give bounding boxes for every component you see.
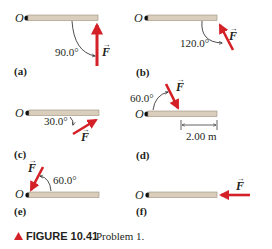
- rod: [148, 15, 217, 21]
- vector-arrow-icon: →: [230, 24, 238, 33]
- pivot-label: O: [15, 187, 24, 201]
- caption-text: Problem 1.: [96, 230, 145, 242]
- panel-e: O 60.0° F → (e): [14, 156, 99, 218]
- rod: [29, 192, 99, 198]
- vector-arrow-icon: →: [82, 125, 90, 134]
- angle-arc: [70, 117, 73, 125]
- vector-arrow-icon: →: [29, 156, 37, 165]
- angle-label: 60.0°: [130, 92, 154, 104]
- rod: [149, 192, 217, 198]
- angle-label: 120.0°: [180, 37, 209, 49]
- panel-label: (f): [136, 205, 147, 218]
- panel-d: O 60.0° F → 2.00 m (d): [130, 75, 217, 162]
- panel-b: O 120.0° F → (b): [134, 11, 238, 79]
- vector-arrow-icon: →: [237, 174, 245, 183]
- angle-arc: [153, 92, 168, 110]
- pivot-label: O: [135, 107, 144, 121]
- panel-label: (d): [136, 149, 150, 162]
- figure-caption: FIGURE 10.41 Problem 1.: [14, 230, 145, 242]
- caption-label: FIGURE 10.41: [26, 230, 98, 242]
- rod: [148, 111, 217, 117]
- panel-a: O 90.0° F → (a): [14, 11, 111, 78]
- panel-label: (a): [14, 65, 27, 78]
- vector-arrow-icon: →: [177, 75, 185, 84]
- panel-label: (c): [14, 148, 27, 161]
- pivot-label: O: [134, 11, 143, 25]
- angle-label: 90.0°: [55, 46, 79, 58]
- figure-canvas: O 90.0° F → (a) O 120.0° F → (b) O 30.0°…: [0, 0, 272, 249]
- angle-arc: [40, 176, 51, 191]
- pivot-label: O: [15, 11, 24, 25]
- pivot-label: O: [135, 188, 144, 202]
- panel-label: (e): [14, 205, 27, 218]
- panel-label: (b): [136, 66, 150, 79]
- panel-c: O 30.0° F → (c): [14, 106, 99, 161]
- angle-label: 60.0°: [53, 174, 77, 186]
- triangle-marker-icon: [14, 232, 23, 240]
- angle-label: 30.0°: [44, 115, 68, 127]
- dimension-label: 2.00 m: [186, 130, 217, 142]
- vector-arrow-icon: →: [103, 40, 111, 49]
- panel-f: O F → (f): [135, 174, 250, 218]
- pivot-label: O: [15, 106, 24, 120]
- rod: [28, 15, 98, 21]
